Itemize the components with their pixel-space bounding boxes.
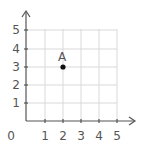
y-tick-1: 1 bbox=[12, 96, 20, 110]
point-a-marker bbox=[60, 64, 65, 69]
x-tick-3: 3 bbox=[77, 129, 85, 143]
x-tick-4: 4 bbox=[95, 129, 103, 143]
y-tick-3: 3 bbox=[12, 60, 20, 74]
origin-label: 0 bbox=[7, 129, 15, 143]
x-tick-2: 2 bbox=[59, 129, 67, 143]
axes bbox=[22, 11, 135, 125]
grid-lines bbox=[26, 29, 117, 121]
x-tick-1: 1 bbox=[41, 129, 49, 143]
point-a-label: A bbox=[58, 50, 67, 64]
y-tick-2: 2 bbox=[12, 78, 20, 92]
y-tick-4: 4 bbox=[12, 42, 20, 56]
coordinate-grid: 0 1 2 3 4 5 1 2 3 4 5 A bbox=[0, 0, 145, 148]
y-tick-5: 5 bbox=[12, 23, 20, 37]
x-tick-5: 5 bbox=[113, 129, 121, 143]
